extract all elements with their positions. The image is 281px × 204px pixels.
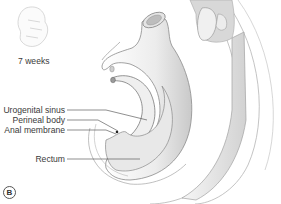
embryo-thumbnail-icon bbox=[18, 7, 48, 47]
panel-letter-badge: B bbox=[3, 186, 16, 199]
label-rectum: Rectum bbox=[1, 154, 65, 164]
label-urogenital-sinus: Urogenital sinus bbox=[1, 105, 65, 115]
label-perineal-body: Perineal body bbox=[1, 115, 65, 125]
perineal-body-dot bbox=[116, 131, 119, 134]
label-anal-membrane: Anal membrane bbox=[1, 125, 65, 135]
cloaca-partition-diagram bbox=[0, 0, 281, 204]
tail-region bbox=[190, 0, 234, 42]
age-label: 7 weeks bbox=[18, 56, 50, 66]
